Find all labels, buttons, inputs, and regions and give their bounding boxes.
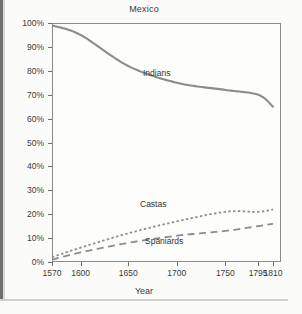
y-tick-mark xyxy=(48,95,52,96)
x-tick-label: 1750 xyxy=(216,268,235,278)
series-label-spaniards: Spaniards xyxy=(145,236,183,246)
x-axis-title: Year xyxy=(0,286,288,296)
y-tick-mark xyxy=(48,214,52,215)
y-tick-mark xyxy=(48,190,52,191)
y-tick-label: 60% xyxy=(0,115,44,123)
y-tick-mark xyxy=(48,23,52,24)
y-tick-label: 90% xyxy=(0,43,44,51)
x-tick-label: 1810 xyxy=(264,268,283,278)
x-tick-mark xyxy=(81,262,82,266)
y-tick-label: 0% xyxy=(0,258,44,266)
chart-title: Mexico xyxy=(0,4,288,14)
x-tick-mark xyxy=(177,262,178,266)
plot-lines xyxy=(52,23,281,262)
y-tick-label: 70% xyxy=(0,91,44,99)
x-tick-label: 1650 xyxy=(119,268,138,278)
y-tick-mark xyxy=(48,238,52,239)
x-tick-mark xyxy=(225,262,226,266)
y-tick-label: 100% xyxy=(0,19,44,27)
y-tick-mark xyxy=(48,71,52,72)
series-label-castas: Castas xyxy=(140,199,166,209)
x-tick-mark xyxy=(52,262,53,266)
y-tick-mark xyxy=(48,119,52,120)
series-label-indians: Indians xyxy=(143,68,170,78)
y-tick-mark xyxy=(48,143,52,144)
x-tick-label: 1600 xyxy=(71,268,90,278)
y-tick-label: 40% xyxy=(0,162,44,170)
x-tick-mark xyxy=(273,262,274,266)
y-tick-mark xyxy=(48,166,52,167)
page-bottom-edge xyxy=(0,299,288,301)
x-tick-mark xyxy=(258,262,259,266)
y-tick-label: 50% xyxy=(0,139,44,147)
y-tick-mark xyxy=(48,47,52,48)
y-tick-label: 10% xyxy=(0,234,44,242)
chart-figure: Mexico 0%10%20%30%40%50%60%70%80%90%100%… xyxy=(0,0,302,314)
series-line-indians xyxy=(52,25,273,106)
series-line-castas xyxy=(52,209,273,257)
x-tick-mark xyxy=(128,262,129,266)
x-tick-label: 1570 xyxy=(43,268,62,278)
y-tick-label: 20% xyxy=(0,210,44,218)
x-tick-label: 1700 xyxy=(167,268,186,278)
y-tick-label: 80% xyxy=(0,67,44,75)
y-tick-label: 30% xyxy=(0,186,44,194)
